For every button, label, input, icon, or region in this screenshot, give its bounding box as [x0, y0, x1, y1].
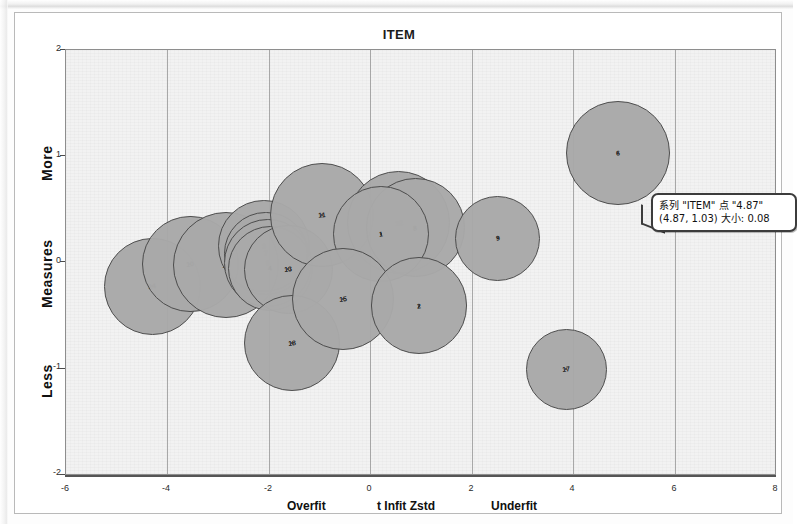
- x-axis-caption-underfit: Underfit: [491, 499, 537, 513]
- bubble-label: 15: [339, 295, 347, 303]
- bubble-label: 18: [288, 339, 296, 347]
- bubble-label: 6: [616, 150, 621, 157]
- x-axis-line: [65, 475, 776, 477]
- plot-area: 141016375413111281181529617: [65, 49, 776, 475]
- y-tick-0: 0: [37, 255, 61, 265]
- datapoint-tooltip[interactable]: 系列 "ITEM" 点 "4.87" (4.87, 1.03) 大小: 0.08: [651, 193, 797, 232]
- chart-frame: ITEM More Measures Less 2 1 0 -1 -2 1410…: [14, 12, 782, 514]
- gridline-x-4: [573, 50, 574, 474]
- x-tick--2: -2: [256, 483, 280, 493]
- y-axis-caption-measures: Measures: [39, 239, 55, 308]
- y-tick-2: 2: [37, 43, 61, 53]
- x-tick-8: 8: [763, 483, 787, 493]
- x-tick-6: 6: [662, 483, 686, 493]
- bubble-label: 9: [495, 235, 500, 242]
- bubble-label: 13: [284, 265, 292, 273]
- bubble-label: 1: [379, 231, 384, 238]
- chart-title: ITEM: [15, 27, 783, 42]
- gridline-x-6: [675, 50, 676, 474]
- bubble-point[interactable]: 6: [566, 101, 670, 205]
- x-axis-caption-overfit: Overfit: [287, 499, 326, 513]
- bubble-label: 17: [562, 366, 570, 374]
- x-tick--4: -4: [154, 483, 178, 493]
- x-tick-4: 4: [560, 483, 584, 493]
- bubble-point[interactable]: 2: [371, 257, 468, 354]
- y-tick-1: 1: [37, 149, 61, 159]
- bubble-label: 2: [417, 302, 422, 309]
- tooltip-line-series: 系列 "ITEM" 点 "4.87": [659, 199, 790, 212]
- x-tick--6: -6: [53, 483, 77, 493]
- bubble-point[interactable]: 9: [455, 196, 540, 281]
- bubble-point[interactable]: 17: [526, 329, 607, 410]
- y-tick-neg2: -2: [37, 467, 61, 477]
- x-tick-2: 2: [459, 483, 483, 493]
- scan-edge-top: [0, 0, 793, 9]
- y-tick-neg1: -1: [37, 361, 61, 371]
- tooltip-line-values: (4.87, 1.03) 大小: 0.08: [659, 212, 790, 225]
- x-axis-caption-tinfitzstd: t Infit Zstd: [377, 499, 435, 513]
- bubble-label: 11: [318, 211, 326, 219]
- scan-edge-left: [0, 0, 8, 524]
- x-tick-0: 0: [357, 483, 381, 493]
